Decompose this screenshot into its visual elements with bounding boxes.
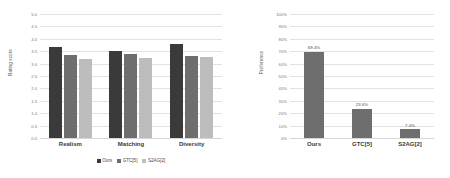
- y-axis-tick-label: 0.5: [31, 123, 37, 128]
- left-chart-x-axis-labels: RealismMatchingDiversity: [40, 141, 222, 147]
- y-axis-tick-label: 4.0: [31, 36, 37, 41]
- bar-group: 23.6%: [352, 14, 372, 138]
- bar: [139, 58, 152, 138]
- bar: [109, 51, 122, 138]
- bar-group: 69.4%: [304, 14, 324, 138]
- legend-item-label: S2AG[2]: [148, 158, 165, 163]
- bar: [49, 47, 62, 138]
- y-axis-tick-label: 60%: [279, 61, 287, 66]
- bar: 7.0%: [400, 129, 420, 138]
- bar-value-label: 7.0%: [405, 123, 415, 128]
- bar: [124, 54, 137, 138]
- y-axis-tick-label: 2.0: [31, 86, 37, 91]
- gridline: 0.0: [40, 138, 222, 139]
- x-axis-category-label: GTC[5]: [338, 141, 386, 147]
- y-axis-tick-label: 20%: [279, 111, 287, 116]
- bar-value-label: 69.4%: [308, 45, 320, 50]
- x-axis-category-label: Realism: [40, 141, 101, 147]
- bar: [185, 56, 198, 138]
- right-chart-bars: 69.4%23.6%7.0%: [290, 14, 434, 138]
- two-panel-bar-chart-figure: Rating score 5.04.54.03.53.02.52.01.51.0…: [0, 0, 450, 178]
- bar: [64, 55, 77, 138]
- y-axis-tick-label: 5.0: [31, 12, 37, 17]
- bar-group: [49, 14, 92, 138]
- right-chart-y-axis-title: Preference: [259, 37, 264, 89]
- x-axis-category-label: S2AG[2]: [386, 141, 434, 147]
- y-axis-tick-label: 0%: [281, 136, 287, 141]
- left-chart-panel: Rating score 5.04.54.03.53.02.52.01.51.0…: [0, 0, 232, 178]
- bar: [170, 44, 183, 138]
- left-chart-legend: OursGTC[5]S2AG[2]: [40, 158, 222, 163]
- y-axis-tick-label: 2.5: [31, 74, 37, 79]
- bar: 23.6%: [352, 109, 372, 138]
- legend-item[interactable]: Ours: [97, 158, 112, 163]
- y-axis-tick-label: 1.0: [31, 111, 37, 116]
- y-axis-tick-label: 3.0: [31, 61, 37, 66]
- y-axis-tick-label: 1.5: [31, 98, 37, 103]
- y-axis-tick-label: 10%: [279, 123, 287, 128]
- y-axis-tick-label: 3.5: [31, 49, 37, 54]
- bar: [200, 57, 213, 138]
- y-axis-tick-label: 90%: [279, 24, 287, 29]
- legend-swatch-icon: [97, 159, 101, 163]
- legend-item[interactable]: GTC[5]: [117, 158, 137, 163]
- bar: [79, 59, 92, 138]
- y-axis-tick-label: 40%: [279, 86, 287, 91]
- left-chart-bars: [40, 14, 222, 138]
- x-axis-category-label: Ours: [290, 141, 338, 147]
- right-chart-panel: Preference 100%90%80%70%60%50%40%30%20%1…: [232, 0, 450, 178]
- bar-group: [170, 14, 213, 138]
- y-axis-tick-label: 80%: [279, 36, 287, 41]
- x-axis-category-label: Matching: [101, 141, 162, 147]
- legend-item-label: GTC[5]: [123, 158, 138, 163]
- legend-item[interactable]: S2AG[2]: [142, 158, 165, 163]
- right-chart-x-axis-labels: OursGTC[5]S2AG[2]: [290, 141, 434, 147]
- y-axis-tick-label: 30%: [279, 98, 287, 103]
- y-axis-tick-label: 4.5: [31, 24, 37, 29]
- bar-group: 7.0%: [400, 14, 420, 138]
- left-chart-y-axis-title: Rating score: [8, 37, 13, 89]
- right-chart-plot-area: 100%90%80%70%60%50%40%30%20%10%0% 69.4%2…: [290, 14, 434, 138]
- y-axis-tick-label: 0.0: [31, 136, 37, 141]
- bar: 69.4%: [304, 52, 324, 138]
- legend-swatch-icon: [142, 159, 146, 163]
- x-axis-category-label: Diversity: [161, 141, 222, 147]
- gridline: 0%: [290, 138, 434, 139]
- y-axis-tick-label: 100%: [276, 12, 287, 17]
- legend-swatch-icon: [117, 159, 121, 163]
- legend-item-label: Ours: [102, 158, 112, 163]
- y-axis-tick-label: 70%: [279, 49, 287, 54]
- bar-group: [109, 14, 152, 138]
- bar-value-label: 23.6%: [356, 102, 368, 107]
- y-axis-tick-label: 50%: [279, 74, 287, 79]
- left-chart-plot-area: 5.04.54.03.53.02.52.01.51.00.50.0: [40, 14, 222, 138]
